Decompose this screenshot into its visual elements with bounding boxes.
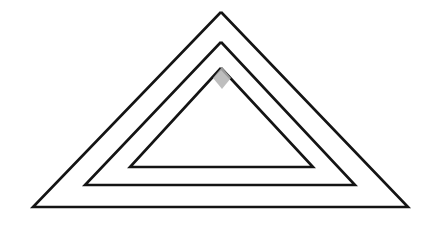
canvas-background: [0, 0, 439, 233]
drawing-canvas[interactable]: Three nested triangle outlines drawn on …: [0, 0, 439, 233]
drawing-surface[interactable]: [0, 0, 439, 233]
